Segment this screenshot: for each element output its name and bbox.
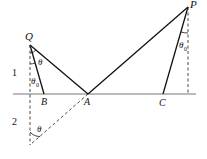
ray-a-p: [88, 7, 188, 94]
angle-theta-bottom: θ: [37, 124, 42, 134]
angle-arc-theta0-q: [30, 63, 35, 64]
refraction-diagram: Q B A C P 1 2 θ θ 0 θ θ 0: [0, 0, 207, 159]
angle-theta-q: θ: [38, 57, 43, 67]
label-a: A: [83, 96, 91, 107]
dashed-extension-a: [30, 94, 88, 145]
label-c: C: [159, 97, 166, 108]
medium-1-label: 1: [12, 67, 17, 78]
angle-theta0-p-sub: 0: [184, 46, 187, 52]
medium-2-label: 2: [12, 116, 17, 127]
angle-arc-theta0-p: [181, 32, 188, 33]
angle-theta0-q-sub: 0: [36, 82, 39, 88]
label-q: Q: [25, 30, 33, 42]
label-p: P: [189, 0, 197, 10]
diagram-svg: Q B A C P 1 2 θ θ 0 θ θ 0: [0, 0, 207, 159]
label-b: B: [41, 96, 47, 107]
